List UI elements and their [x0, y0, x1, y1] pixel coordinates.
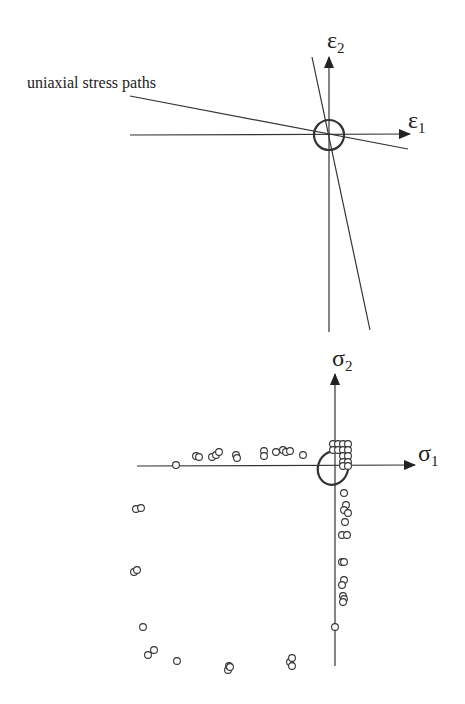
data-point: [340, 599, 347, 606]
data-point: [341, 490, 348, 497]
data-point: [134, 567, 141, 574]
data-point: [332, 624, 339, 631]
data-point: [341, 559, 348, 566]
data-point: [234, 455, 241, 462]
data-point: [173, 462, 180, 469]
data-point: [216, 449, 223, 456]
data-point: [227, 664, 234, 671]
data-point: [151, 647, 158, 654]
annotation-label: uniaxial stress paths: [27, 74, 156, 92]
data-point: [289, 663, 296, 670]
epsilon1-label: ε1: [408, 107, 426, 136]
data-point: [138, 505, 145, 512]
sigma2-label: σ2: [332, 345, 352, 374]
data-point: [289, 655, 296, 662]
epsilon2-label: ε2: [327, 27, 345, 56]
uniaxial-path-2: [312, 57, 370, 330]
strain-diagram: [130, 57, 410, 332]
data-point: [196, 454, 203, 461]
data-point: [339, 582, 346, 589]
uniaxial-path-1: [130, 96, 408, 149]
data-point: [345, 510, 352, 517]
sigma1-label: σ1: [418, 440, 438, 469]
data-point: [344, 532, 351, 539]
data-point: [174, 658, 181, 665]
data-point: [287, 448, 294, 455]
data-point: [345, 463, 352, 470]
data-point: [273, 449, 280, 456]
stress-diagram: [131, 374, 415, 673]
data-point: [261, 453, 268, 460]
epsilon1-axis: [130, 134, 410, 135]
data-point: [300, 452, 307, 459]
data-point: [145, 652, 152, 659]
figure-canvas: uniaxial stress paths ε1 ε2 σ1 σ2: [0, 0, 465, 704]
data-point: [342, 519, 349, 526]
data-point: [140, 624, 147, 631]
